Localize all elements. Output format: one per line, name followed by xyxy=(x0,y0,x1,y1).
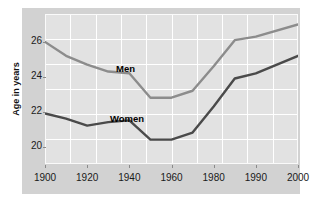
y-tick-mark xyxy=(43,112,46,113)
x-tick-label: 1960 xyxy=(152,172,192,183)
x-tick-mark xyxy=(214,165,215,168)
x-tick-label: 1900 xyxy=(25,172,65,183)
x-axis-ticks: 1900192019401960198019902000 xyxy=(0,0,319,207)
series-label-women: Women xyxy=(110,113,144,124)
y-tick-mark xyxy=(43,42,46,43)
x-tick-mark xyxy=(129,165,130,168)
y-tick-mark xyxy=(43,147,46,148)
x-tick-mark xyxy=(87,165,88,168)
x-tick-mark xyxy=(172,165,173,168)
x-tick-label: 1920 xyxy=(67,172,107,183)
chart-container: Age in years 20222426 190019201940196019… xyxy=(0,0,319,207)
y-tick-mark xyxy=(43,77,46,78)
x-tick-label: 1990 xyxy=(236,172,276,183)
x-tick-label: 2000 xyxy=(278,172,318,183)
series-label-men: Men xyxy=(116,63,135,74)
x-tick-mark xyxy=(298,165,299,168)
x-tick-mark xyxy=(256,165,257,168)
x-tick-label: 1980 xyxy=(194,172,234,183)
x-tick-mark xyxy=(45,165,46,168)
x-tick-label: 1940 xyxy=(109,172,149,183)
